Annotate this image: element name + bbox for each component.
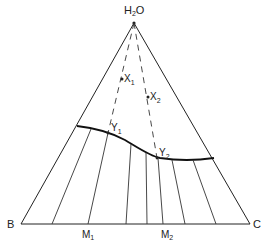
label-y1: Y1 [111, 122, 122, 135]
label-x1: X1 [124, 73, 135, 86]
label-m1: M1 [82, 229, 94, 241]
solubility-curve [77, 126, 214, 160]
tie-lines [52, 129, 216, 224]
label-x2: X2 [150, 91, 161, 104]
point-y1 [107, 132, 110, 135]
ternary-diagram: H2O B C X1 X2 Y1 Y2 M1 M2 [0, 0, 269, 241]
vertex-label-c: C [253, 218, 261, 230]
point-y2 [156, 157, 159, 160]
label-m2: M2 [161, 229, 173, 241]
vertex-label-b: B [7, 218, 14, 230]
triangle-outline [21, 23, 250, 224]
vertex-label-h2o: H2O [124, 4, 145, 17]
